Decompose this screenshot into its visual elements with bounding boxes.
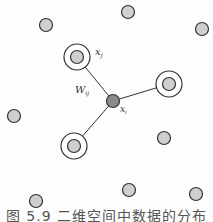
center-point [107, 95, 120, 108]
neighbor-point [71, 51, 84, 64]
data-point [122, 6, 135, 19]
figure: xjWijxi 图 5.9 二维空间中数据的分布 [0, 0, 213, 222]
data-point [123, 184, 136, 197]
label-xj: xj [95, 46, 103, 59]
data-point [8, 110, 21, 123]
data-point [190, 188, 203, 201]
neighbor-point [68, 140, 81, 153]
label-wij: Wij [75, 84, 89, 97]
neighbor-point [163, 78, 176, 91]
data-point [158, 132, 171, 145]
data-point [40, 19, 53, 32]
data-distribution-diagram: xjWijxi [0, 0, 213, 222]
data-point [196, 23, 209, 36]
figure-caption: 图 5.9 二维空间中数据的分布 [0, 205, 213, 222]
label-xi: xi [120, 104, 127, 115]
